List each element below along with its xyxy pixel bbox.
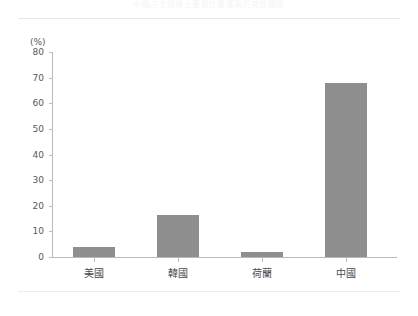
x-tick-mark bbox=[94, 258, 95, 262]
bar bbox=[241, 252, 283, 257]
y-axis-unit-label: (%) bbox=[30, 38, 46, 47]
y-tick-label: 10 bbox=[20, 227, 44, 236]
y-tick-label: 0 bbox=[20, 253, 44, 262]
y-tick-label: 20 bbox=[20, 202, 44, 211]
y-tick-label: 60 bbox=[20, 99, 44, 108]
figure-caption: 中國占全球稀土產量比重遠高於其他國家 bbox=[0, 0, 418, 10]
chart-figure: 中國占全球稀土產量比重遠高於其他國家 (%) 01020304050607080… bbox=[0, 0, 418, 316]
bar bbox=[157, 215, 199, 257]
y-tick-label: 70 bbox=[20, 74, 44, 83]
x-tick-label: 美國 bbox=[54, 268, 134, 280]
y-tick-label: 30 bbox=[20, 176, 44, 185]
y-tick-label: 80 bbox=[20, 48, 44, 57]
plot-area bbox=[52, 52, 388, 257]
bar bbox=[73, 247, 115, 257]
x-tick-label: 韓國 bbox=[138, 268, 218, 280]
x-tick-label: 中國 bbox=[306, 268, 386, 280]
x-tick-label: 荷蘭 bbox=[222, 268, 302, 280]
divider-bottom bbox=[18, 291, 400, 292]
x-tick-mark bbox=[178, 258, 179, 262]
divider-top bbox=[18, 18, 400, 19]
bar bbox=[325, 83, 367, 257]
y-tick-mark bbox=[49, 257, 53, 258]
y-tick-label: 50 bbox=[20, 125, 44, 134]
y-tick-label: 40 bbox=[20, 151, 44, 160]
x-tick-mark bbox=[262, 258, 263, 262]
x-tick-mark bbox=[346, 258, 347, 262]
